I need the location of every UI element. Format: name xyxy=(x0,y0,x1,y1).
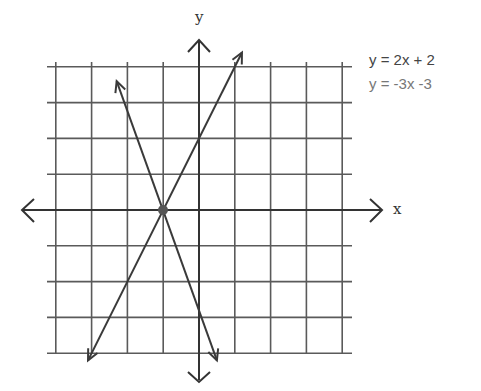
y-axis-label: y xyxy=(195,8,203,26)
axes xyxy=(22,40,382,382)
legend-eq1: y = 2x + 2 xyxy=(369,48,435,72)
legend: y = 2x + 2 y = -3x -3 xyxy=(369,48,435,96)
intersection-point xyxy=(158,205,168,215)
legend-eq2: y = -3x -3 xyxy=(369,72,435,96)
x-axis-label: x xyxy=(393,200,401,218)
